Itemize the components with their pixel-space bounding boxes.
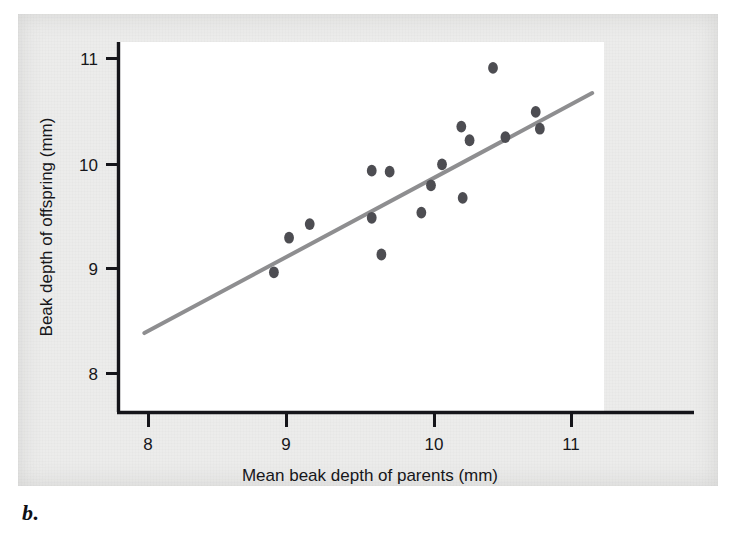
figure-caption-label: b. xyxy=(22,500,40,526)
scatter-point xyxy=(284,232,294,244)
scatter-point xyxy=(416,207,426,219)
x-axis-ticks xyxy=(149,412,572,427)
x-axis-title: Mean beak depth of parents (mm) xyxy=(242,466,498,485)
scatter-point xyxy=(458,192,468,204)
scatter-point xyxy=(531,106,541,118)
y-tick-label-8: 8 xyxy=(89,365,98,384)
scatter-point xyxy=(385,166,395,178)
scatter-point xyxy=(269,266,279,278)
scatter-point xyxy=(426,179,436,191)
regression-trendline xyxy=(144,93,592,333)
x-tick-label-9: 9 xyxy=(281,435,290,454)
scatter-point xyxy=(367,212,377,224)
y-tick-label-10: 10 xyxy=(79,156,98,175)
y-axis-ticks xyxy=(106,59,118,374)
scatter-point xyxy=(465,134,475,146)
x-tick-label-10: 10 xyxy=(425,435,444,454)
scatter-point xyxy=(367,165,377,177)
y-tick-label-9: 9 xyxy=(89,260,98,279)
x-tick-label-11: 11 xyxy=(562,435,580,454)
x-tick-label-8: 8 xyxy=(143,435,152,454)
scatter-point xyxy=(501,131,511,143)
scatter-point xyxy=(437,158,447,170)
scatter-point xyxy=(305,218,315,230)
scatter-chart: 11 10 9 8 8 9 10 11 Mean beak depth of p… xyxy=(0,0,735,551)
y-axis-title: Beak depth of offspring (mm) xyxy=(37,118,56,337)
scatter-point xyxy=(456,121,466,133)
scatter-point xyxy=(488,62,498,74)
y-tick-label-11: 11 xyxy=(80,50,98,69)
scatter-point xyxy=(376,249,386,261)
scatter-point xyxy=(535,123,545,135)
figure-root: 11 10 9 8 8 9 10 11 Mean beak depth of p… xyxy=(0,0,735,551)
